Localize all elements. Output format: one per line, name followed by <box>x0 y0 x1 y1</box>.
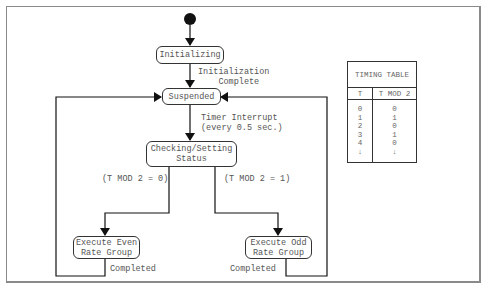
label-timer-interrupt: Timer Interrupt (every 0.5 sec.) <box>201 113 283 133</box>
state-checking-setting-status: Checking/Setting Status <box>146 141 237 167</box>
state-suspended: Suspended <box>162 88 221 105</box>
timing-table-header-t: T <box>348 88 373 99</box>
state-execute-odd-rate-group: Execute Odd Rate Group <box>245 236 312 259</box>
label-even-completed: Completed <box>110 264 156 274</box>
state-initializing: Initializing <box>156 46 224 64</box>
label-initialization-complete: Initialization Complete <box>198 67 269 87</box>
timing-table: TIMING TABLE T T MOD 2 0 1 2 3 4 ↓ 0 1 0… <box>347 61 417 163</box>
timing-table-header-row: T T MOD 2 <box>348 88 416 100</box>
timing-table-column-t: 0 1 2 3 4 ↓ <box>348 100 373 162</box>
initial-state-dot <box>184 13 196 25</box>
label-t-mod-2-equals-0: (T MOD 2 = 0) <box>102 174 168 184</box>
timing-table-body: 0 1 2 3 4 ↓ 0 1 0 1 0 ↓ <box>348 100 416 162</box>
timing-table-title: TIMING TABLE <box>348 62 416 88</box>
label-t-mod-2-equals-1: (T MOD 2 = 1) <box>224 174 290 184</box>
label-odd-completed: Completed <box>230 264 276 274</box>
timing-table-column-t-mod-2: 0 1 0 1 0 ↓ <box>373 100 416 162</box>
timing-table-header-t-mod-2: T MOD 2 <box>373 88 416 99</box>
state-execute-even-rate-group: Execute Even Rate Group <box>73 236 140 259</box>
